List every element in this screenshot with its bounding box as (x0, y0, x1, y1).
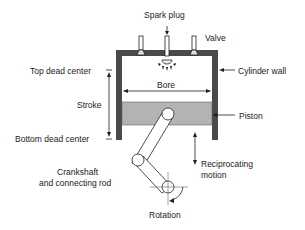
label-crankshaft: Crankshaft (57, 167, 98, 177)
label-connecting-rod: and connecting rod (39, 178, 111, 188)
label-bore: Bore (157, 80, 175, 90)
label-rotation: Rotation (149, 210, 181, 220)
label-bottom-dead-center: Bottom dead center (15, 134, 89, 144)
label-spark-plug: Spark plug (144, 10, 185, 20)
label-top-dead-center: Top dead center (30, 66, 91, 76)
label-piston: Piston (239, 111, 263, 121)
label-motion: motion (201, 170, 227, 180)
label-stroke: Stroke (77, 100, 102, 110)
label-valve: Valve (205, 33, 226, 43)
label-reciprocating: Reciprocating (201, 159, 253, 169)
stroke-dimension (106, 70, 112, 139)
label-cylinder-wall: Cylinder wall (238, 66, 286, 76)
